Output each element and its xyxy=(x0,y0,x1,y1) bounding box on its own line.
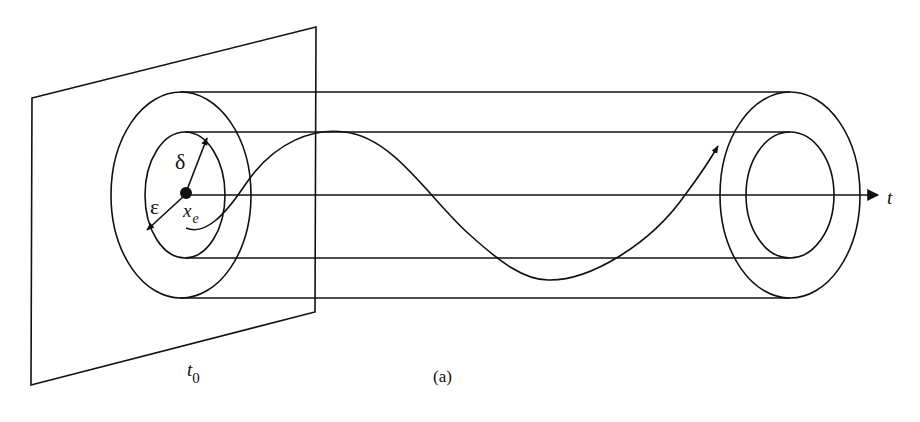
xe-subscript: e xyxy=(192,211,198,226)
figure-caption: (a) xyxy=(433,367,452,386)
t0-label: t0 xyxy=(187,359,200,386)
epsilon-label: ε xyxy=(150,194,159,219)
stability-tube-diagram: δ ε xe t t0 (a) xyxy=(0,0,920,422)
t0-subscript: 0 xyxy=(192,370,200,386)
t-axis-label: t xyxy=(887,187,893,208)
equilibrium-point xyxy=(180,187,192,199)
xe-label: xe xyxy=(182,200,199,226)
delta-label: δ xyxy=(175,149,185,174)
delta-radius-arrow xyxy=(185,138,207,195)
